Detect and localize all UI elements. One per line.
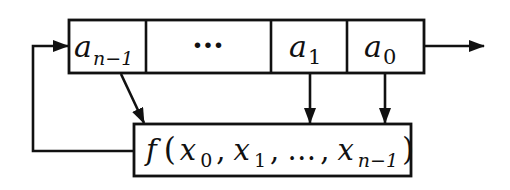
- tap-arrow-a-n-1: [121, 74, 144, 123]
- comma: ,: [270, 133, 279, 167]
- cell-a-0-base: a: [364, 29, 382, 64]
- cell-a-1-sub: 1: [308, 45, 321, 69]
- shift-register-diagram: a n−1 ··· a 1 a 0 f ( x 0 , x 1 ,: [0, 0, 510, 190]
- arg-x1-base: x: [234, 133, 250, 167]
- arg-x0-base: x: [180, 133, 196, 167]
- cell-a-n-1-base: a: [74, 29, 92, 64]
- comma: ,: [320, 133, 329, 167]
- cell-a-0-sub: 0: [383, 45, 396, 69]
- arg-x0-sub: 0: [200, 149, 212, 171]
- arg-xn-1-base: x: [337, 133, 353, 167]
- function-close-paren: ): [402, 131, 414, 167]
- comma: ,: [216, 133, 225, 167]
- arg-xn-1-sub: n−1: [358, 149, 398, 171]
- cell-a-n-1-sub: n−1: [93, 47, 133, 69]
- arg-ellipsis: …: [287, 133, 316, 167]
- register: a n−1 ··· a 1 a 0: [69, 20, 424, 73]
- function-open-paren: (: [164, 131, 176, 167]
- arg-x1-sub: 1: [254, 149, 266, 171]
- function-box: f ( x 0 , x 1 , … , x n−1 ): [134, 124, 414, 176]
- cell-a-1-base: a: [289, 29, 307, 64]
- cell-ellipsis: ···: [192, 28, 223, 63]
- cell-ellipsis-text: ···: [192, 28, 223, 63]
